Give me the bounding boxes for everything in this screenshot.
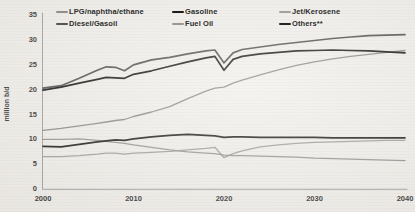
y-tick-label: 0	[33, 184, 37, 193]
x-tick-label: 2010	[125, 194, 142, 203]
axes: 0510152025303520002010202020302040	[29, 10, 414, 203]
legend-item-fuel-oil: Fuel Oil	[172, 19, 279, 28]
y-tick-label: 30	[29, 35, 37, 44]
y-axis-ticks: 05101520253035	[29, 10, 37, 193]
y-tick-label: 25	[29, 60, 37, 69]
y-axis-title: million b/d	[3, 87, 10, 122]
series-lines	[43, 35, 405, 161]
legend-marker-line	[56, 23, 68, 25]
legend-marker-line	[279, 23, 291, 25]
chart-legend: LPG/naphtha/ethaneGasolineJet/KeroseneDi…	[56, 7, 340, 28]
x-tick-label: 2020	[216, 194, 233, 203]
x-axis-ticks: 20002010202020302040	[35, 194, 414, 203]
legend-label: Jet/Kerosene	[292, 7, 340, 16]
legend-label: Diesel/Gasoil	[69, 19, 117, 28]
x-tick-label: 2040	[397, 194, 414, 203]
y-tick-label: 35	[29, 10, 37, 19]
legend-item-others: Others**	[279, 19, 340, 28]
y-tick-label: 20	[29, 85, 37, 94]
legend-marker-line	[172, 11, 184, 13]
y-tick-label: 15	[29, 110, 37, 119]
legend-item-jet-kerosene: Jet/Kerosene	[279, 7, 340, 16]
legend-label: LPG/naphtha/ethane	[69, 7, 144, 16]
legend-marker-line	[172, 23, 184, 25]
line-chart: 0510152025303520002010202020302040 milli…	[0, 0, 415, 212]
legend-item-lpg-naphtha-ethane: LPG/naphtha/ethane	[56, 7, 172, 16]
legend-label: Fuel Oil	[185, 19, 213, 28]
scanned-chart-page: { "colors": { "paper": "#f2f0ec", "axis"…	[0, 0, 415, 212]
legend-label: Gasoline	[185, 7, 217, 16]
x-tick-label: 2000	[35, 194, 52, 203]
y-tick-label: 10	[29, 134, 37, 143]
x-tick-label: 2030	[306, 194, 323, 203]
legend-item-gasoline: Gasoline	[172, 7, 279, 16]
legend-marker-line	[56, 11, 68, 13]
legend-marker-line	[279, 11, 291, 13]
legend-item-diesel-gasoil: Diesel/Gasoil	[56, 19, 172, 28]
legend-label: Others**	[292, 19, 323, 28]
y-tick-label: 5	[33, 159, 37, 168]
